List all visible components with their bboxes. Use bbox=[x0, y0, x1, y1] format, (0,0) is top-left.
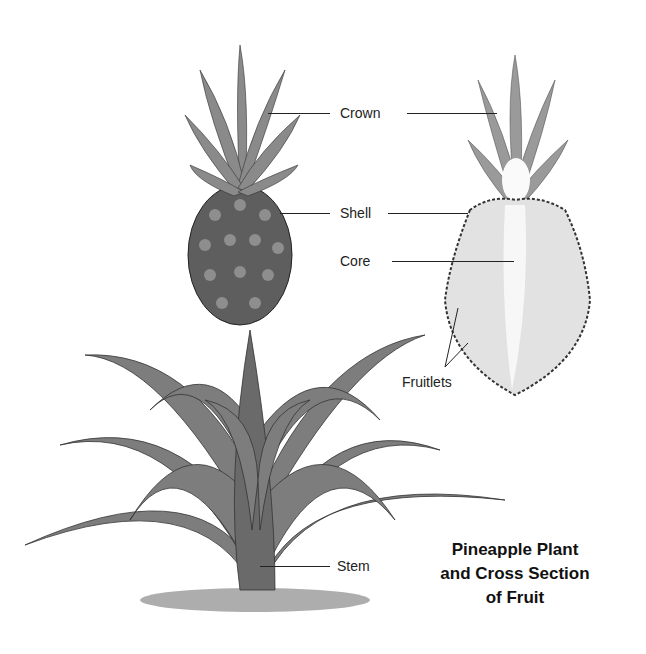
diagram-title: Pineapple Plant and Cross Section of Fru… bbox=[420, 538, 610, 610]
title-line-3: of Fruit bbox=[420, 586, 610, 610]
label-stem: Stem bbox=[337, 558, 370, 574]
label-fruitlets: Fruitlets bbox=[402, 374, 452, 390]
stem-leader bbox=[260, 566, 330, 567]
title-line-2: and Cross Section bbox=[420, 562, 610, 586]
title-line-1: Pineapple Plant bbox=[420, 538, 610, 562]
